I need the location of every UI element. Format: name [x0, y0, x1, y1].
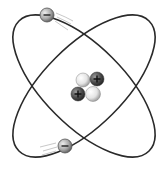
nucleus: [71, 72, 104, 102]
proton: [90, 72, 104, 86]
electron-top: [40, 8, 54, 22]
neutron: [76, 73, 90, 87]
motion-lines-top: [55, 13, 73, 30]
neutron: [86, 87, 101, 102]
proton: [71, 87, 85, 101]
atom-diagram: Atom model: [0, 0, 165, 173]
electron-bottom: [58, 139, 72, 153]
